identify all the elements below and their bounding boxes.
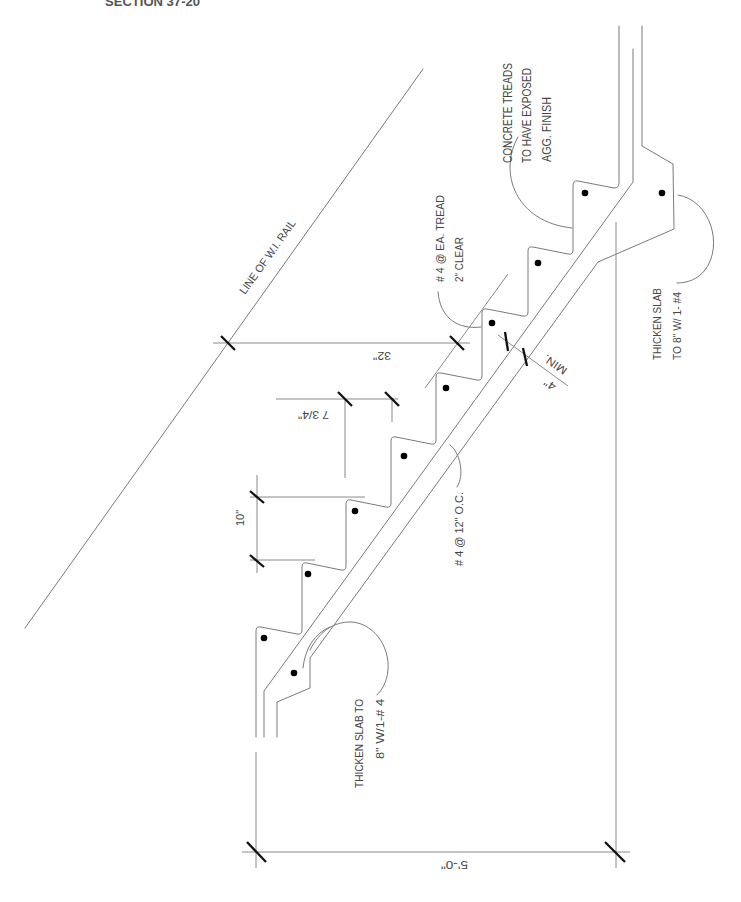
dimension-text: 4"	[541, 376, 558, 393]
stair-top-surface	[256, 26, 619, 737]
rebar-dot	[305, 571, 312, 578]
leader-thicken-slab-top	[677, 195, 714, 283]
dimension-tick	[523, 348, 527, 366]
dimension-overall-run: 5'-0"	[242, 222, 630, 871]
note-line: CONCRETE TREADS	[501, 63, 515, 163]
dimension-tick	[505, 332, 508, 351]
dimension-text: 10"	[234, 510, 246, 526]
note-thicken-slab-bottom: THICKEN SLAB TO 8" W/1-# 4	[353, 699, 386, 788]
rebar-dot	[489, 320, 496, 327]
slab-bottom-line	[277, 26, 674, 737]
dimension-text: 32"	[373, 350, 391, 362]
note-line: 8" W/1-# 4	[374, 699, 386, 759]
note-concrete-treads: CONCRETE TREADS TO HAVE EXPOSED AGG. FIN…	[501, 63, 554, 163]
note-line: TO 8" W/ 1- #4	[671, 292, 683, 360]
note-line: 2" CLEAR	[453, 237, 465, 282]
dimension-tread-depth: 10"	[234, 475, 365, 573]
rebar-dot	[659, 190, 666, 197]
leader-tread-rebar	[438, 292, 481, 327]
note-line: TO HAVE EXPOSED	[520, 68, 534, 163]
stair-section-drawing: SECTION 37-20 32"	[0, 0, 741, 902]
rebar-dot	[582, 190, 589, 197]
rail-line	[25, 69, 423, 628]
dimension-text: MIN.	[541, 352, 569, 377]
rebar-dot	[401, 453, 408, 460]
note-line: THICKEN SLAB	[651, 288, 663, 360]
rebar-dot	[261, 635, 268, 642]
note-rail: LINE OF W.I. RAIL	[237, 218, 298, 297]
dimension-riser-height: 7 3/4"	[276, 392, 399, 478]
note-tread-rebar: # 4 @ EA. TREAD 2" CLEAR	[434, 195, 465, 282]
dimension-text: 7 3/4"	[298, 409, 329, 421]
leader-slab-rebar	[450, 445, 461, 487]
note-line: THICKEN SLAB TO	[353, 699, 365, 788]
rebar-dot	[352, 508, 359, 515]
note-line: # 4 @ EA. TREAD	[434, 195, 446, 282]
drawing-sheet: SECTION 37-20 32"	[0, 0, 741, 902]
dimension-rail-height: 32"	[213, 336, 470, 362]
rebar-dot	[291, 670, 298, 677]
note-thicken-slab-top: THICKEN SLAB TO 8" W/ 1- #4	[651, 288, 683, 360]
note-slab-rebar: # 4 @ 12" O.C.	[453, 492, 465, 566]
leader-thicken-slab-bottom-inner	[303, 627, 330, 668]
drawing-title: SECTION 37-20	[105, 0, 200, 9]
leader-thicken-slab-bottom	[310, 622, 388, 695]
rebar-dot	[443, 385, 450, 392]
rebar-dot	[535, 260, 542, 267]
dimension-text: 5'-0"	[441, 859, 468, 871]
note-line: AGG. FINISH	[540, 97, 554, 162]
